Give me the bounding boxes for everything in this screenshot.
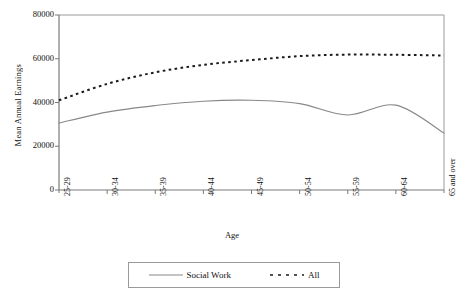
x-tick-label: 55-59 <box>352 177 361 196</box>
x-tick-label: 50-54 <box>304 177 313 196</box>
x-tick-label: 60-64 <box>400 177 409 196</box>
legend-item-all: All <box>270 270 320 280</box>
plot-area <box>0 0 464 300</box>
x-tick-label: 30-34 <box>111 177 120 196</box>
x-tick-label: 35-39 <box>159 177 168 196</box>
legend-item-social-work: Social Work <box>149 270 231 280</box>
data-series-group <box>59 55 444 134</box>
plot-frame <box>59 15 444 190</box>
legend-swatch-solid <box>149 271 183 279</box>
y-tick-label: 40000 <box>8 97 54 107</box>
y-tick-label: 0 <box>8 184 54 194</box>
y-tick-label: 60000 <box>8 53 54 63</box>
legend-label-all: All <box>308 270 320 280</box>
legend-swatch-dashed <box>270 271 304 279</box>
y-tick-label: 20000 <box>8 140 54 150</box>
x-tick-label: 40-44 <box>207 177 216 196</box>
y-tick-label: 80000 <box>8 9 54 19</box>
series-line-all <box>59 55 444 101</box>
x-axis-title: Age <box>0 230 464 240</box>
legend-label-social-work: Social Work <box>187 270 231 280</box>
x-tick-label: 25-29 <box>63 177 72 196</box>
x-tick-label: 45-49 <box>256 177 265 196</box>
chart-legend: Social Work All <box>128 262 340 288</box>
x-tick-label: 65 and over <box>448 158 457 196</box>
chart-figure: Mean Annual Earnings Age 020000400006000… <box>0 0 464 300</box>
series-line-social-work <box>59 100 444 133</box>
